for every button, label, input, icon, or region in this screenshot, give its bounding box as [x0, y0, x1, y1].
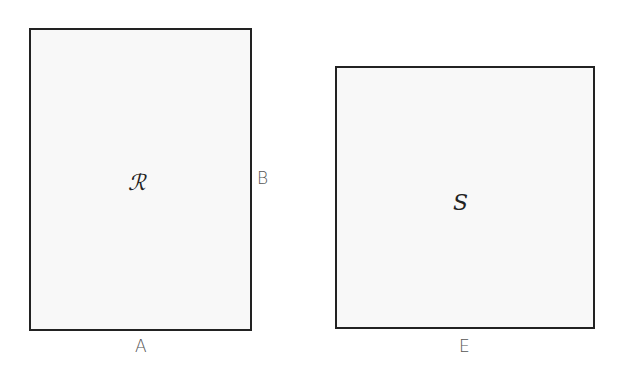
rectangle-width-label: A [135, 336, 147, 356]
square-side-label: E [459, 336, 470, 356]
square-s-label: S [453, 190, 468, 215]
rectangle-r-label: ℛ [128, 170, 146, 195]
rectangle-height-label: B [257, 168, 268, 188]
